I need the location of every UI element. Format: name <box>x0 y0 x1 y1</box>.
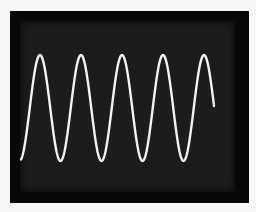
sine-wave-trace <box>0 0 256 212</box>
